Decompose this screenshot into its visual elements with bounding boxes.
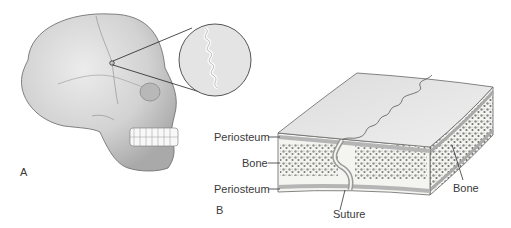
panel-label-a: A — [20, 166, 27, 178]
label-bone-left: Bone — [242, 157, 268, 169]
skull-illustration — [21, 14, 178, 171]
bone-cross-section-block — [278, 73, 493, 195]
label-periosteum-bottom: Periosteum — [214, 183, 270, 195]
panel-label-b: B — [216, 204, 223, 216]
label-suture: Suture — [333, 208, 365, 220]
label-periosteum-top: Periosteum — [214, 131, 270, 143]
label-bone-right: Bone — [453, 182, 479, 194]
